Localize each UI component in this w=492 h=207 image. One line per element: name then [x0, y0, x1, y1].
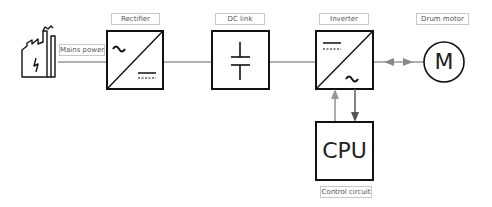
rectifier-label: Rectifier	[111, 13, 160, 25]
dc-link-block	[212, 31, 269, 89]
factory-icon	[22, 26, 55, 77]
inverter-label: Inverter	[319, 13, 369, 25]
motor-symbol: M	[424, 47, 464, 77]
cpu-up-arrow-icon	[331, 89, 339, 122]
control-circuit-label: Control circuit	[320, 186, 372, 198]
inverter-block	[316, 31, 373, 89]
drum-motor-label: Drum motor	[416, 13, 469, 25]
block-diagram-canvas	[0, 0, 492, 207]
cpu-down-arrow-icon	[351, 89, 359, 122]
cpu-symbol: CPU	[316, 136, 373, 166]
rectifier-block	[107, 31, 163, 89]
mains-power-label: Mains power	[59, 44, 105, 56]
dc-link-label: DC link	[215, 13, 265, 25]
